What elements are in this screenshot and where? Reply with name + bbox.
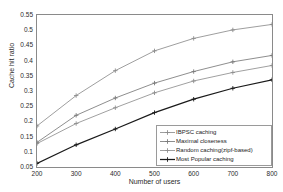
x-tick-label: 700: [219, 170, 247, 177]
legend-marker-icon: [159, 146, 176, 155]
legend-marker-icon: [159, 128, 176, 137]
x-tick-label: 400: [101, 170, 129, 177]
x-tick-label: 200: [23, 170, 51, 177]
x-tick-label: 300: [62, 170, 90, 177]
legend-label: Maximal closeness: [176, 137, 227, 146]
legend-item[interactable]: Maximal closeness: [159, 137, 271, 146]
legend: IBPSC cachingMaximal closenessRandom cac…: [156, 125, 272, 166]
legend-item[interactable]: IBPSC caching: [159, 128, 271, 137]
legend-item[interactable]: Random caching(zipf-based): [159, 146, 271, 155]
legend-item[interactable]: Most Popular caching: [159, 155, 271, 164]
legend-marker-icon: [159, 155, 176, 164]
legend-label: Random caching(zipf-based): [176, 146, 253, 155]
x-tick-label: 800: [258, 170, 283, 177]
x-tick-label: 600: [180, 170, 208, 177]
legend-label: Most Popular caching: [176, 155, 234, 164]
chart-figure: Cache hit ratio Number of users 0.050.10…: [0, 0, 283, 192]
legend-marker-icon: [159, 137, 176, 146]
legend-label: IBPSC caching: [176, 128, 216, 137]
x-tick-label: 500: [141, 170, 169, 177]
